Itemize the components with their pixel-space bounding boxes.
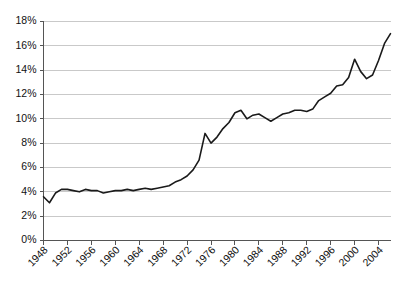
y-tick-label: 16% xyxy=(15,39,36,51)
x-axis xyxy=(44,241,391,245)
x-tick-label: 1996 xyxy=(312,243,337,268)
y-tick-label: 4% xyxy=(21,185,36,197)
x-tick-label: 1980 xyxy=(216,243,241,268)
x-tick-label: 1948 xyxy=(25,243,50,268)
x-tick-label: 1972 xyxy=(168,243,193,268)
x-axis-tick-labels: 1948195219561960196419681972197619801984… xyxy=(25,243,385,268)
x-tick-label: 1956 xyxy=(73,243,98,268)
x-tick-label: 1952 xyxy=(49,243,74,268)
y-tick-label: 12% xyxy=(15,87,36,99)
x-tick-label: 1976 xyxy=(192,243,217,268)
line-chart: 0%2%4%6%8%10%12%14%16%18% 19481952195619… xyxy=(0,0,402,290)
y-axis xyxy=(40,21,44,241)
y-tick-label: 0% xyxy=(21,233,36,245)
chart-canvas: 0%2%4%6%8%10%12%14%16%18% 19481952195619… xyxy=(0,0,402,290)
x-tick-label: 1968 xyxy=(145,243,170,268)
x-tick-label: 2000 xyxy=(336,243,361,268)
x-tick-label: 1988 xyxy=(264,243,289,268)
y-tick-label: 8% xyxy=(21,136,36,148)
y-axis-tick-labels: 0%2%4%6%8%10%12%14%16%18% xyxy=(15,14,36,245)
x-tick-label: 1960 xyxy=(97,243,122,268)
y-tick-label: 18% xyxy=(15,14,36,26)
x-tick-label: 1964 xyxy=(121,243,146,268)
gridlines-group xyxy=(44,22,391,217)
data-series-group xyxy=(44,34,391,203)
x-tick-label: 2004 xyxy=(360,243,385,268)
y-tick-label: 6% xyxy=(21,160,36,172)
x-tick-label: 1992 xyxy=(288,243,313,268)
series-line-share xyxy=(44,34,391,203)
x-tick-label: 1984 xyxy=(240,243,265,268)
y-tick-label: 2% xyxy=(21,209,36,221)
y-tick-label: 14% xyxy=(15,63,36,75)
y-tick-label: 10% xyxy=(15,112,36,124)
